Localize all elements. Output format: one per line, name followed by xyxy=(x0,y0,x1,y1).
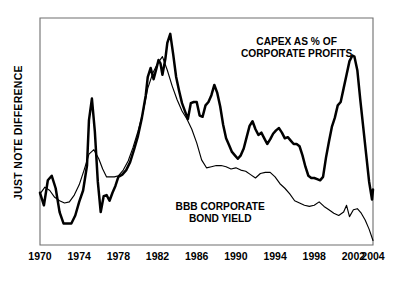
y-axis-title-group: JUST NOTE DIFFERENCE xyxy=(12,65,24,200)
capex-annotation-line-1: CAPEX AS % OF xyxy=(256,36,337,47)
capex-annotation: CAPEX AS % OFCORPORATE PROFITS xyxy=(241,36,353,59)
series-line-1 xyxy=(40,34,373,224)
x-tick-label-1970: 1970 xyxy=(28,250,52,262)
line-chart: 1970197419781982198619901994199820022004… xyxy=(0,0,399,283)
x-tick-label-1998: 1998 xyxy=(303,250,327,262)
x-tick-label-1982: 1982 xyxy=(146,250,170,262)
x-axis-tick-labels: 1970197419781982198619901994199820022004 xyxy=(28,250,385,262)
bbb-annotation-line-2: BOND YIELD xyxy=(189,213,252,224)
x-tick-label-1978: 1978 xyxy=(107,250,131,262)
bbb-annotation: BBB CORPORATEBOND YIELD xyxy=(176,201,265,224)
chart-container: 1970197419781982198619901994199820022004… xyxy=(0,0,399,283)
chart-annotations: CAPEX AS % OFCORPORATE PROFITSBBB CORPOR… xyxy=(176,36,353,224)
x-tick-label-1986: 1986 xyxy=(185,250,209,262)
x-tick-label-1994: 1994 xyxy=(263,250,287,262)
bbb-annotation-line-1: BBB CORPORATE xyxy=(176,201,265,212)
y-axis-title: JUST NOTE DIFFERENCE xyxy=(12,65,24,200)
x-tick-label-1990: 1990 xyxy=(224,250,248,262)
x-tick-label-2004: 2004 xyxy=(361,250,385,262)
capex-annotation-line-2: CORPORATE PROFITS xyxy=(241,48,353,59)
x-tick-label-1974: 1974 xyxy=(68,250,92,262)
